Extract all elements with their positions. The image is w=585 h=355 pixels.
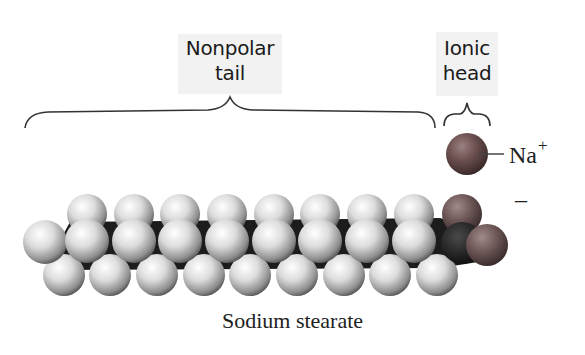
sodium-ion xyxy=(446,133,504,175)
nonpolar-tail-label: Nonpolar tail xyxy=(178,34,282,94)
hydrogen-atom xyxy=(205,219,249,263)
head-label-line1: Ionic xyxy=(436,36,498,61)
ion-charge: + xyxy=(538,136,548,155)
tail-bracket xyxy=(25,97,435,128)
head-bracket xyxy=(444,103,490,126)
negative-charge-label: – xyxy=(515,186,527,213)
figure-caption: Sodium stearate xyxy=(0,308,585,334)
hydrogen-atom xyxy=(65,219,109,263)
hydrogen-middle-row xyxy=(23,219,436,264)
hydrogen-atom xyxy=(158,219,202,263)
head-label-line2: head xyxy=(436,61,498,86)
ionic-head-label: Ionic head xyxy=(436,32,498,96)
hydrogen-atom xyxy=(112,219,156,263)
hydrogen-bottom-row xyxy=(43,254,458,296)
ion-symbol: Na xyxy=(509,142,537,168)
carboxylate-head xyxy=(441,194,508,266)
hydrogen-atom xyxy=(345,219,389,263)
sodium-ion-label: Na+ xyxy=(509,139,548,169)
hydrogen-atom xyxy=(252,219,296,263)
tail-label-line1: Nonpolar xyxy=(178,36,282,61)
hydrogen-atom xyxy=(392,219,436,263)
hydrogen-atom xyxy=(298,219,342,263)
tail-label-line2: tail xyxy=(178,61,282,86)
